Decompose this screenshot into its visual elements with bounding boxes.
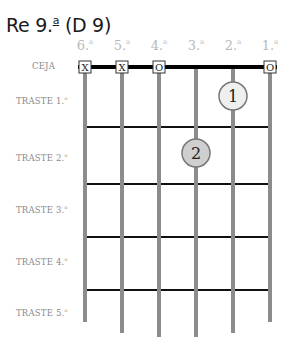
chord-diagram: XXOO12 <box>0 0 294 349</box>
string-marker-label: O <box>266 62 274 73</box>
string-marker-label: X <box>118 62 126 73</box>
string-marker-label: O <box>155 62 163 73</box>
string-marker-label: X <box>81 62 89 73</box>
finger-number: 2 <box>191 144 201 163</box>
finger-number: 1 <box>228 87 238 106</box>
